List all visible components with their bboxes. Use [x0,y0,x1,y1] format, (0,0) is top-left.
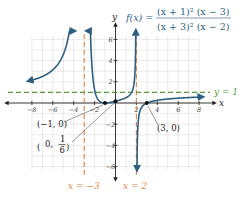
svg-text:2: 2 [108,78,113,86]
svg-text:4: 4 [154,106,159,114]
svg-text:(: ( [37,142,40,152]
label-vertical-asymptote-right: x = 2 [123,181,147,191]
svg-text:−6: −6 [48,106,58,114]
svg-text:0,: 0, [45,139,53,149]
curve-branch [29,31,74,81]
label-point-neg1-0: (−1, 0) [37,119,67,129]
svg-text:6: 6 [176,106,180,114]
svg-text:−4: −4 [69,106,79,114]
label-horizontal-asymptote: y = 1 [213,87,238,97]
label-point-0-sixth: ( 0, 1 6 ) [37,134,69,155]
svg-text:(x + 3)² (x − 2): (x + 3)² (x − 2) [157,21,229,32]
x-axis-label: x [219,98,224,108]
svg-text:−4: −4 [106,142,116,150]
label-vertical-asymptote-left: x = −3 [68,181,100,191]
y-axis-label: y [111,12,118,22]
svg-text:−8: −8 [27,106,37,114]
svg-text:−2: −2 [106,121,116,129]
point-0-sixth [114,99,118,103]
svg-text:4: 4 [108,57,113,65]
point-3-0 [145,101,149,105]
label-point-3-0: (3, 0) [157,123,180,133]
point-neg1-0 [103,101,107,105]
svg-text:−6: −6 [106,163,116,171]
svg-text:(x + 1)² (x − 3): (x + 1)² (x − 3) [157,6,229,17]
svg-text:6: 6 [109,36,113,44]
svg-text:): ) [66,142,69,152]
svg-text:6: 6 [60,145,65,155]
rational-function-graph: x y −8−6−4−22468−6−4−2246 (−1, 0) ( 0, 1… [0,0,244,203]
svg-text:f(x) =: f(x) = [125,12,153,23]
svg-text:1: 1 [60,134,65,144]
svg-text:8: 8 [197,106,201,114]
function-formula: f(x) = (x + 1)² (x − 3) (x + 3)² (x − 2) [125,6,231,32]
